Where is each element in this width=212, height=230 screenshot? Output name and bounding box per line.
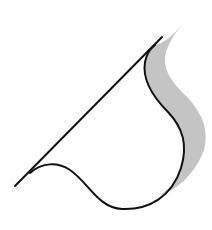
- straight-line: [15, 37, 162, 186]
- diagram-canvas: [0, 0, 212, 230]
- gray-shaded-band: [144, 24, 205, 195]
